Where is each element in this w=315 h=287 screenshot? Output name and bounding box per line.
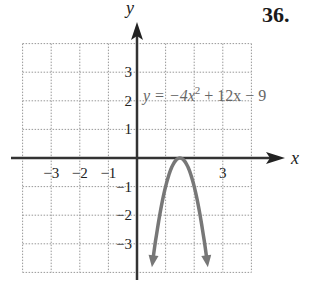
- x-tick-label: 3: [219, 165, 227, 181]
- y-axis-label: y: [124, 0, 134, 18]
- y-tick-label: 3: [125, 64, 133, 80]
- x-tick-label: −1: [100, 165, 116, 181]
- y-tick-label: 2: [125, 93, 133, 109]
- x-axis-label: x: [290, 148, 299, 168]
- x-tick-label: −2: [72, 165, 88, 181]
- y-tick-label: 1: [125, 121, 133, 137]
- x-tick-label: −3: [43, 165, 59, 181]
- axes: [11, 22, 285, 280]
- parabola-curve: [149, 158, 212, 267]
- graph: x y −3−2−13321−1−2−3 y = −4x2 + 12x − 9: [0, 0, 315, 287]
- equation-label: y = −4x2 + 12x − 9: [141, 84, 266, 105]
- y-tick-label: −1: [116, 179, 132, 195]
- y-tick-label: −3: [116, 236, 132, 252]
- curve-arrow-icon: [149, 255, 159, 268]
- y-tick-label: −2: [116, 207, 132, 223]
- curve-arrow-icon: [201, 255, 211, 268]
